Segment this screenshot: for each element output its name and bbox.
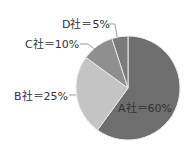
pie-chart: D社＝5% C社＝10% B社＝25% A社＝60% (0, 0, 195, 156)
label-d: D社＝5% (62, 17, 110, 31)
label-a: A社＝60% (118, 101, 172, 115)
label-c: C社＝10% (25, 37, 79, 51)
label-b: B社＝25% (14, 89, 68, 103)
pie-slices (76, 36, 180, 140)
